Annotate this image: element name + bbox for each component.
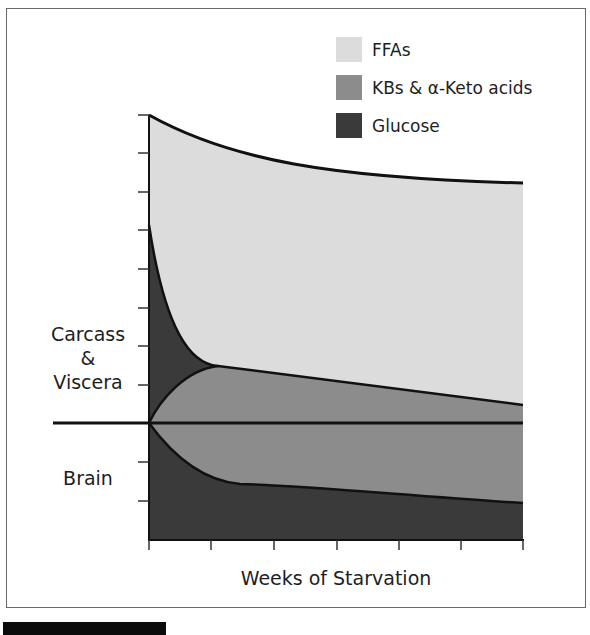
legend-item-kbs: KBs & α-Keto acids [336,75,532,100]
legend-item-glucose: Glucose [336,113,532,138]
kb-swatch-icon [336,75,362,100]
carcass-viscera-label: Carcass & Viscera [33,322,143,394]
region-label-line: & [33,346,143,370]
y-ticks [138,115,149,501]
region-label-line: Carcass [33,322,143,346]
brain-label: Brain [33,466,143,490]
ffa-swatch-icon [336,37,362,62]
x-axis-title: Weeks of Starvation [148,567,524,589]
glucose-swatch-icon [336,113,362,138]
legend: FFAs KBs & α-Keto acids Glucose [336,37,532,151]
region-label-line: Viscera [33,370,143,394]
legend-item-ffas: FFAs [336,37,532,62]
legend-label: Glucose [372,116,440,136]
legend-label: KBs & α-Keto acids [372,78,532,98]
legend-label: FFAs [372,40,410,60]
x-ticks [149,540,523,550]
